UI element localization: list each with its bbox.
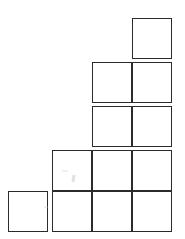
- block-cell: [52, 150, 92, 191]
- chart-plot-area: [0, 0, 185, 239]
- block-cell: [92, 191, 132, 232]
- block-cell: [132, 106, 172, 147]
- block-cell: [92, 150, 132, 191]
- block-cell: [132, 62, 172, 103]
- bar-column-4: [132, 15, 172, 232]
- block-cell: [92, 62, 132, 103]
- block-cell: [92, 106, 132, 147]
- block-cell: [132, 150, 172, 191]
- block-cell: [52, 191, 92, 232]
- block-cell: [132, 18, 172, 59]
- bar-column-3: [92, 59, 132, 232]
- block-bar-chart: [0, 0, 185, 239]
- bar-column-2: [52, 147, 92, 232]
- block-cell: [8, 191, 48, 232]
- block-cell: [132, 191, 172, 232]
- bar-column-1: [8, 191, 48, 232]
